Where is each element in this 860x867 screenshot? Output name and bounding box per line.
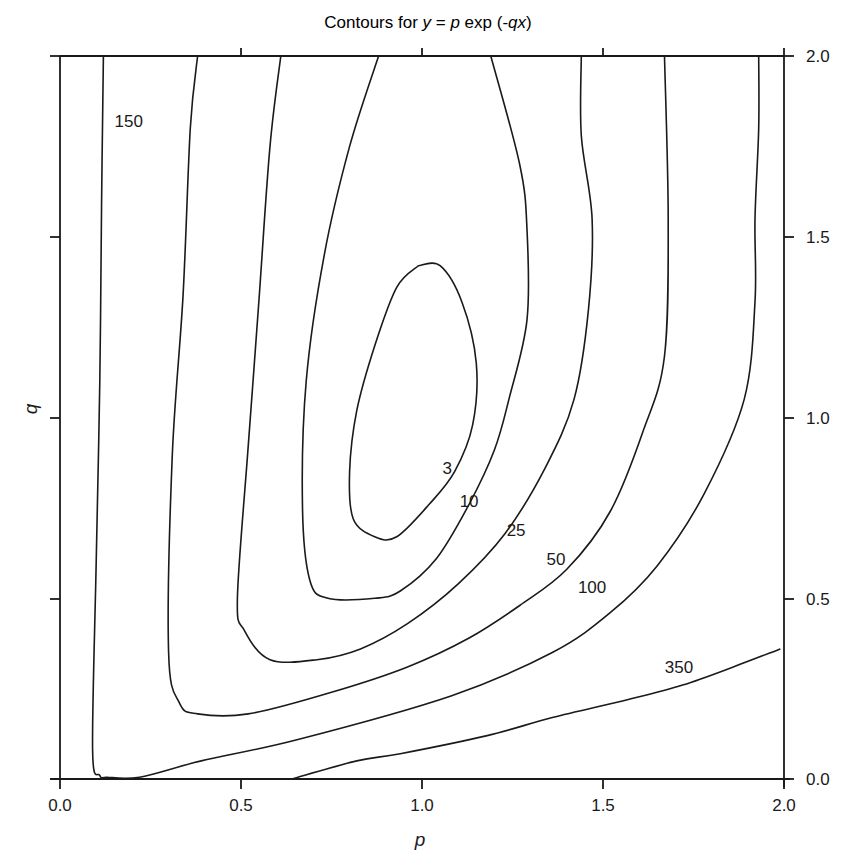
y-tick-label: 1.5 bbox=[806, 228, 830, 247]
x-tick-label: 0.5 bbox=[229, 796, 253, 815]
y-tick-label: 0.5 bbox=[806, 590, 830, 609]
contour-label-150: 150 bbox=[115, 112, 143, 131]
contour-chart: Contours for y = p exp (-qx) 0.0 0.5 1.0… bbox=[0, 0, 860, 867]
contour-line-3 bbox=[349, 263, 477, 540]
x-tick-label: 0.0 bbox=[48, 796, 72, 815]
contour-line-10 bbox=[302, 56, 528, 600]
y-axis-label: q bbox=[20, 403, 41, 414]
chart-title: Contours for y = p exp (-qx) bbox=[324, 13, 531, 32]
contour-label-350: 350 bbox=[665, 658, 693, 677]
contour-labels: 3102550100150350 bbox=[115, 112, 694, 677]
x-axis-ticks bbox=[60, 48, 784, 789]
contour-line-100 bbox=[93, 56, 759, 778]
x-tick-label: 1.5 bbox=[591, 796, 615, 815]
y-tick-label: 2.0 bbox=[806, 47, 830, 66]
x-axis-label: p bbox=[414, 829, 426, 850]
x-tick-label: 2.0 bbox=[772, 796, 796, 815]
contour-label-100: 100 bbox=[578, 578, 606, 597]
contour-label-10: 10 bbox=[460, 492, 479, 511]
contour-line-350 bbox=[292, 649, 781, 779]
contour-line-25 bbox=[237, 56, 592, 662]
x-axis-tick-labels: 0.0 0.5 1.0 1.5 2.0 bbox=[48, 796, 796, 815]
x-tick-label: 1.0 bbox=[410, 796, 434, 815]
y-tick-label: 0.0 bbox=[806, 770, 830, 789]
contour-label-50: 50 bbox=[546, 550, 565, 569]
contour-label-3: 3 bbox=[443, 459, 452, 478]
y-tick-label: 1.0 bbox=[806, 409, 830, 428]
contour-label-25: 25 bbox=[507, 521, 526, 540]
y-axis-tick-labels: 2.0 1.5 1.0 0.5 0.0 bbox=[806, 47, 830, 789]
